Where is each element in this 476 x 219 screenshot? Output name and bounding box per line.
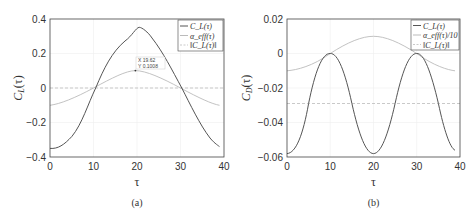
xtick: 20 [368, 161, 380, 172]
panel-b: 0.02 0 −0.02 −0.04 −0.06 0 10 20 30 40 τ… [239, 14, 466, 210]
y-axis-label-b: CD(τ) [239, 75, 254, 102]
x-axis-label-b: τ [371, 175, 376, 189]
datatip-marker [135, 70, 137, 72]
xtick: 10 [325, 161, 337, 172]
panel-a: X 19.62 Y 0.1008 0.4 0.2 0 −0.2 −0.4 0 1… [11, 14, 230, 210]
ytick: 0 [40, 83, 46, 94]
legend-item: α_eff(τ) [190, 32, 215, 41]
datatip: X 19.62 Y 0.1008 [135, 57, 166, 72]
xtick: 0 [284, 161, 290, 172]
legend-item: C_L(τ) [190, 22, 212, 31]
ytick: −0.2 [26, 117, 46, 128]
y-axis-label-a: CL(τ) [11, 75, 26, 100]
xtick: 0 [47, 161, 53, 172]
ytick: −0.06 [258, 152, 284, 163]
xtick: 10 [88, 161, 100, 172]
legend-b: C_L(τ) α_eff(τ)/10 ‖C_L(τ)‖ [411, 20, 459, 50]
ytick: −0.02 [258, 83, 284, 94]
xtick: 20 [131, 161, 143, 172]
ytick: 0.4 [32, 14, 46, 25]
legend-item: ‖C_L(τ)‖ [423, 41, 449, 50]
figure: X 19.62 Y 0.1008 0.4 0.2 0 −0.2 −0.4 0 1… [0, 0, 476, 219]
ytick: 0 [277, 48, 283, 59]
ytick: 0.2 [32, 48, 46, 59]
x-axis-label-a: τ [135, 175, 140, 189]
legend-item: ‖C_L(τ)‖ [190, 41, 216, 50]
legend-item: α_eff(τ)/10 [423, 31, 458, 40]
xtick: 30 [411, 161, 423, 172]
datatip-y: Y 0.1008 [138, 63, 158, 69]
y-ticks-a: 0.4 0.2 0 −0.2 −0.4 [26, 14, 46, 163]
legend-a: C_L(τ) α_eff(τ) ‖C_L(τ)‖ [178, 20, 223, 51]
legend-item: C_L(τ) [423, 22, 445, 31]
ytick: −0.04 [258, 117, 284, 128]
caption-b: (b) [368, 197, 380, 209]
x-ticks-b: 0 10 20 30 40 [284, 161, 466, 172]
xtick: 40 [454, 161, 466, 172]
xtick: 30 [175, 161, 187, 172]
ytick: −0.4 [26, 152, 46, 163]
y-ticks-b: 0.02 0 −0.02 −0.04 −0.06 [258, 14, 284, 163]
caption-a: (a) [131, 197, 142, 209]
ytick: 0.02 [264, 14, 284, 25]
xtick: 40 [218, 161, 230, 172]
x-ticks-a: 0 10 20 30 40 [47, 161, 230, 172]
